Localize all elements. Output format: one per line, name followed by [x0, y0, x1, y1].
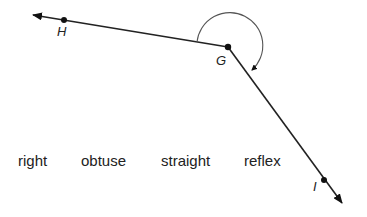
label-g: G [216, 53, 226, 68]
choice-reflex[interactable]: reflex [244, 152, 281, 169]
point-h [61, 17, 67, 23]
angle-diagram [0, 0, 367, 217]
label-i: I [313, 179, 317, 194]
choice-obtuse[interactable]: obtuse [81, 152, 126, 169]
choice-right[interactable]: right [18, 152, 47, 169]
point-i [321, 177, 327, 183]
label-h: H [57, 24, 66, 39]
reflex-angle-arc [197, 13, 263, 70]
point-g [225, 44, 231, 50]
choice-straight[interactable]: straight [161, 152, 210, 169]
